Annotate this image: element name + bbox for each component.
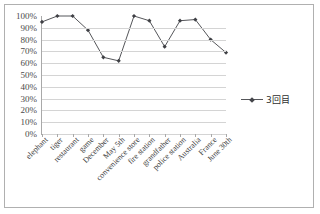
y-axis-labels: 0%10%20%30%40%50%60%70%80%90%100% (5, 16, 39, 134)
data-point-marker (163, 45, 167, 49)
gridline (42, 122, 226, 123)
data-point-marker (101, 55, 105, 59)
diamond-marker-icon (249, 97, 255, 103)
y-tick-label: 70% (21, 47, 38, 56)
data-point-marker (40, 20, 44, 24)
gridline (42, 51, 226, 52)
x-category-label: elephant (25, 136, 50, 161)
x-axis-labels: elephanttigerrestaurantgameDecemberMay 5… (41, 136, 241, 206)
plot-area (41, 16, 226, 135)
y-tick-label: 60% (21, 59, 38, 68)
gridline (42, 40, 226, 41)
gridline (42, 63, 226, 64)
legend-label-3rd: 3回目 (266, 93, 290, 106)
data-point-marker (147, 19, 151, 23)
gridline (42, 75, 226, 76)
y-tick-label: 0% (25, 130, 37, 139)
chart-frame: 0%10%20%30%40%50%60%70%80%90%100% elepha… (4, 4, 314, 208)
chart-legend: 3回目 (241, 93, 290, 106)
series-polyline (42, 16, 226, 61)
y-tick-label: 40% (21, 83, 38, 92)
y-tick-label: 100% (16, 12, 37, 21)
y-tick-label: 80% (21, 36, 38, 45)
y-tick-label: 10% (21, 118, 38, 127)
data-point-marker (55, 14, 59, 18)
gridline (42, 110, 226, 111)
gridline (42, 87, 226, 88)
y-tick-label: 20% (21, 106, 38, 115)
legend-line-swatch (241, 99, 263, 100)
y-tick-label: 50% (21, 71, 38, 80)
data-point-marker (132, 14, 136, 18)
gridline (42, 99, 226, 100)
y-tick-label: 30% (21, 95, 38, 104)
y-tick-label: 90% (21, 24, 38, 33)
gridline (42, 28, 226, 29)
data-point-marker (178, 19, 182, 23)
